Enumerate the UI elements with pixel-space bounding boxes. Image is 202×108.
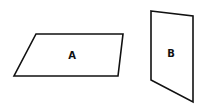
shape-b-label: B xyxy=(167,48,175,59)
diagram-canvas: A B xyxy=(0,0,202,108)
shape-a-label: A xyxy=(68,50,76,61)
shape-a-group: A xyxy=(14,34,123,76)
shape-b-group: B xyxy=(151,11,193,102)
